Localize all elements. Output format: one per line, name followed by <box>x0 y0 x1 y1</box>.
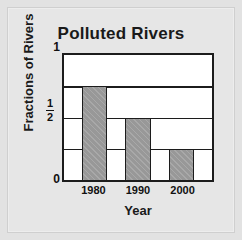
x-tick-slot-1980: 1980 <box>80 184 106 200</box>
x-axis-title: Year <box>62 203 214 218</box>
y-tick-label-0: 0 <box>40 172 60 186</box>
bar-spacer-right <box>194 55 212 180</box>
bar-2000[interactable] <box>169 149 195 180</box>
x-tick-slot-2000: 2000 <box>169 184 195 200</box>
chart-canvas: Polluted Rivers Fractions of Rivers 1 1 … <box>0 0 242 240</box>
chart-title: Polluted Rivers <box>0 24 242 44</box>
bar-slot-2000 <box>169 55 195 180</box>
bar-spacer-2 <box>151 55 169 180</box>
x-tick-spacer-2 <box>151 184 169 200</box>
y-axis-title: Fractions of Rivers <box>21 8 36 138</box>
y-tick-half-denominator: 2 <box>47 111 53 123</box>
y-axis-tick-labels: 1 1 2 0 <box>40 48 60 188</box>
x-tick-label-2000: 2000 <box>170 184 194 196</box>
bar-spacer-left <box>64 55 82 180</box>
plot-area <box>62 53 214 182</box>
bar-group-container <box>64 55 212 180</box>
y-tick-label-1: 1 <box>40 40 60 54</box>
x-axis-tick-labels: 1980 1990 2000 <box>62 184 214 200</box>
x-tick-spacer-left <box>62 184 80 200</box>
x-tick-spacer-right <box>196 184 214 200</box>
x-tick-slot-1990: 1990 <box>125 184 151 200</box>
bar-1980[interactable] <box>82 86 108 180</box>
y-tick-label-half: 1 2 <box>40 98 60 123</box>
x-tick-spacer-1 <box>107 184 125 200</box>
bar-spacer-1 <box>107 55 125 180</box>
x-tick-label-1980: 1980 <box>81 184 105 196</box>
y-tick-half-numerator: 1 <box>46 98 54 111</box>
bar-slot-1990 <box>125 55 151 180</box>
x-tick-label-1990: 1990 <box>126 184 150 196</box>
bar-1990[interactable] <box>125 118 151 181</box>
bar-slot-1980 <box>82 55 108 180</box>
